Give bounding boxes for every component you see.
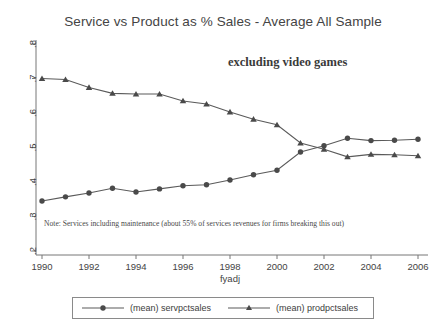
data-point-marker <box>180 183 185 188</box>
y-axis-tick-label: .5 <box>27 144 38 152</box>
x-axis-title: fyadj <box>220 273 240 284</box>
y-axis-tick-label: .6 <box>27 109 38 117</box>
x-axis-tick-label: 2000 <box>266 261 287 272</box>
data-series <box>39 75 422 203</box>
y-axis-tick-label: .3 <box>27 213 38 221</box>
legend-marker-circle-icon <box>81 302 125 314</box>
data-point-marker <box>298 149 303 154</box>
axes: .2.3.4.5.6.7.819901992199419961998200020… <box>27 40 428 284</box>
data-point-marker <box>274 168 279 173</box>
x-axis-tick-label: 1998 <box>219 261 240 272</box>
data-point-marker <box>133 189 138 194</box>
data-point-marker <box>392 138 397 143</box>
plot-area: .2.3.4.5.6.7.819901992199419961998200020… <box>0 0 446 330</box>
y-axis-tick-label: .2 <box>27 247 38 255</box>
data-point-marker <box>368 138 373 143</box>
data-point-marker <box>157 186 162 191</box>
legend-entry-servpctsales[interactable]: (mean) servpctsales <box>81 298 211 318</box>
chart-legend: (mean) servpctsales (mean) prodpctsales <box>72 297 374 319</box>
data-point-marker <box>39 198 44 203</box>
y-axis-tick-label: .4 <box>27 178 38 186</box>
x-axis-tick-label: 1996 <box>172 261 193 272</box>
x-axis-tick-label: 2006 <box>407 261 428 272</box>
x-axis-tick-label: 1990 <box>31 261 52 272</box>
chart-container: Service vs Product as % Sales - Average … <box>0 0 446 330</box>
x-axis-tick-label: 2004 <box>360 261 381 272</box>
series-line-1 <box>42 79 418 157</box>
x-axis-tick-label: 2002 <box>313 261 334 272</box>
legend-label-prodpctsales: (mean) prodpctsales <box>276 303 358 313</box>
x-axis-tick-label: 1992 <box>78 261 99 272</box>
legend-label-servpctsales: (mean) servpctsales <box>130 303 211 313</box>
data-point-marker <box>86 190 91 195</box>
data-point-marker <box>204 182 209 187</box>
data-point-marker <box>110 186 115 191</box>
y-axis-tick-label: .8 <box>27 40 38 48</box>
legend-entry-prodpctsales[interactable]: (mean) prodpctsales <box>227 298 358 318</box>
data-point-marker <box>251 172 256 177</box>
data-point-marker <box>415 137 420 142</box>
x-axis-tick-label: 1994 <box>125 261 146 272</box>
data-point-marker <box>63 194 68 199</box>
data-point-marker <box>227 177 232 182</box>
legend-marker-triangle-icon <box>227 302 271 314</box>
series-line-0 <box>42 138 418 201</box>
data-point-marker <box>345 135 350 140</box>
y-axis-tick-label: .7 <box>27 75 38 83</box>
